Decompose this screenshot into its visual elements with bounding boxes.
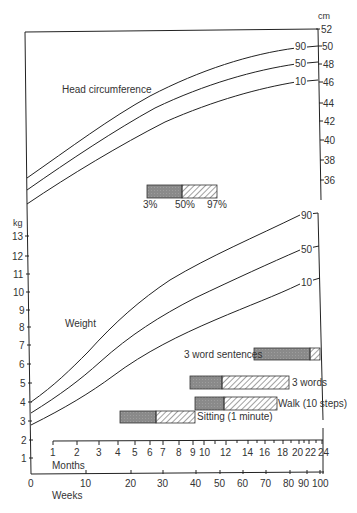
month-tick-12: 12: [220, 447, 232, 458]
cm-axis-label: cm: [318, 11, 330, 21]
week-tick-0: 0: [28, 478, 34, 489]
cm-tick-52: 52: [321, 24, 333, 35]
kg-tick-6: 6: [19, 359, 25, 370]
week-tick-80: 80: [283, 478, 295, 489]
milestone-sitting-label: Sitting (1 minute): [197, 411, 273, 422]
milestone-bars: 3 word sentences 3 words Walk (10 steps)…: [120, 348, 347, 423]
kg-tick-1: 1: [21, 453, 27, 464]
milestone-sentences-label: 3 word sentences: [184, 349, 262, 360]
kg-tick-13: 13: [12, 231, 24, 242]
growth-chart: cm 52 50 48 46 44 42 40 38 36 90 50: [0, 0, 357, 513]
months-axis: 1 2 3 4 5 6 7 8 9 10 12 14 16 18 20 22 2…: [50, 440, 330, 471]
kg-tick-7: 7: [19, 340, 25, 351]
week-tick-50: 50: [214, 478, 226, 489]
head-circumference-title: Head circumference: [62, 84, 152, 95]
kg-tick-4: 4: [20, 397, 26, 408]
month-tick-22: 22: [305, 447, 317, 458]
legend-shaded-swatch: [147, 185, 182, 198]
milestone-sitting: Sitting (1 minute): [120, 411, 273, 423]
milestone-3-words: 3 words: [190, 376, 327, 389]
month-tick-7: 7: [160, 447, 166, 458]
milestone-walk-label: Walk (10 steps): [278, 398, 347, 409]
legend-hatched-swatch: [182, 185, 217, 198]
kg-tick-9: 9: [19, 305, 25, 316]
cm-tick-36: 36: [324, 175, 336, 186]
week-tick-20: 20: [125, 478, 137, 489]
head-p10-label: 10: [295, 76, 307, 87]
week-tick-30: 30: [157, 478, 169, 489]
week-tick-70: 70: [260, 478, 272, 489]
weeks-axis-label: Weeks: [52, 490, 82, 501]
weeks-axis: 0 10 20 30 40 50 60 70 80 90 100 Weeks: [28, 470, 329, 501]
milestone-3-word-sentences: 3 word sentences: [184, 348, 320, 360]
month-tick-2: 2: [74, 447, 80, 458]
month-tick-5: 5: [132, 447, 138, 458]
weight-p90-label: 90: [301, 210, 313, 221]
week-tick-90: 90: [298, 478, 310, 489]
weight-title: Weight: [65, 318, 96, 329]
cm-tick-38: 38: [324, 155, 336, 166]
month-tick-9: 9: [190, 447, 196, 458]
month-tick-8: 8: [176, 447, 182, 458]
kg-tick-3: 3: [20, 416, 26, 427]
cm-tick-44: 44: [323, 98, 335, 109]
weight-p90-curve: [31, 215, 300, 402]
month-tick-6: 6: [147, 447, 153, 458]
month-tick-16: 16: [259, 447, 271, 458]
month-tick-20: 20: [292, 447, 304, 458]
legend-label-3: 3%: [143, 199, 158, 210]
cm-tick-48: 48: [323, 59, 335, 70]
month-tick-14: 14: [242, 447, 254, 458]
week-tick-40: 40: [190, 478, 202, 489]
month-tick-1: 1: [50, 447, 56, 458]
head-p90-label: 90: [295, 41, 307, 52]
weight-p10-label: 10: [301, 277, 313, 288]
week-tick-100: 100: [312, 478, 329, 489]
month-tick-4: 4: [115, 447, 121, 458]
legend-label-97: 97%: [207, 199, 227, 210]
kg-tick-5: 5: [20, 378, 26, 389]
cm-tick-46: 46: [323, 77, 335, 88]
head-circumference-curves: [27, 46, 318, 204]
cm-tick-50: 50: [322, 41, 334, 52]
month-tick-3: 3: [96, 447, 102, 458]
month-tick-18: 18: [277, 447, 289, 458]
head-p50-curve: [27, 64, 296, 190]
kg-tick-12: 12: [12, 251, 24, 262]
head-p50-label: 50: [295, 58, 307, 69]
legend-label-50: 50%: [175, 199, 195, 210]
weight-p50-label: 50: [301, 244, 313, 255]
kg-tick-10: 10: [13, 287, 25, 298]
month-tick-24: 24: [318, 447, 330, 458]
cm-tick-40: 40: [324, 135, 336, 146]
milestone-words-label: 3 words: [292, 377, 327, 388]
week-tick-60: 60: [237, 478, 249, 489]
kg-tick-11: 11: [13, 269, 24, 280]
percentile-legend: 3% 50% 97%: [143, 185, 227, 210]
kg-tick-8: 8: [19, 322, 25, 333]
month-tick-10: 10: [199, 447, 211, 458]
head-p90-curve: [27, 48, 296, 178]
milestone-walk: Walk (10 steps): [195, 397, 347, 410]
kg-tick-2: 2: [21, 435, 27, 446]
week-tick-10: 10: [80, 478, 92, 489]
cm-tick-42: 42: [324, 116, 336, 127]
months-axis-label: Months: [52, 460, 85, 471]
kg-axis-label: kg: [13, 218, 23, 228]
